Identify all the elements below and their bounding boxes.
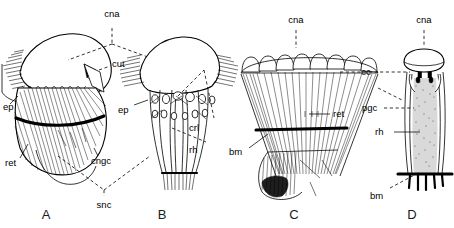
label-bm-c: bm [229,146,242,157]
label-cna-c: cna [288,14,304,25]
panel-letter-a: A [42,207,51,222]
label-snc: snc [97,199,112,210]
label-cna-d: cna [416,14,432,25]
label-ret-a: ret [5,157,16,168]
label-ep-a: ep [3,101,14,112]
panel-letter-d: D [407,207,416,222]
panel-d-cone-nucleus-left [416,77,420,83]
panel-letter-c: C [289,207,298,222]
label-rh-d: rh [375,126,383,137]
label-cngc: cngc [91,155,111,166]
label-rh-b: rh [189,144,197,155]
figure-svg: cna cut ep ret cngc snc A [0,0,454,228]
panel-d-corneal-cap [404,49,444,72]
panel-d-rhabdom-core [413,78,438,174]
label-ep-b: ep [118,104,129,115]
label-cna-a: cna [104,8,120,19]
label-ret-c: ret [333,108,344,119]
panel-d-cone-nucleus-right [429,77,433,83]
label-cut: cut [112,58,125,69]
figure-canvas: cna cut ep ret cngc snc A [0,0,454,228]
label-pgc: pgc [362,102,378,113]
label-bm-d: bm [370,190,383,201]
label-crl: crl [189,122,199,133]
panel-letter-b: B [158,207,167,222]
panel-c-basement-membrane [256,128,347,130]
label-cc: cc [361,66,371,77]
